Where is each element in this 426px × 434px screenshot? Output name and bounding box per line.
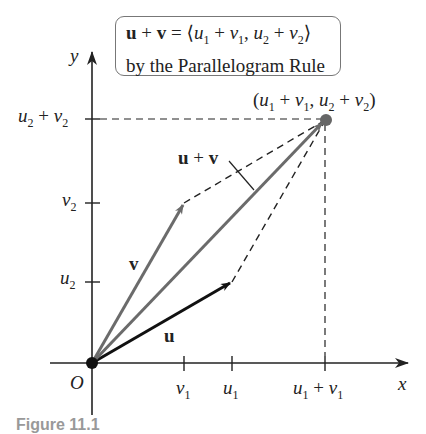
v: v — [329, 377, 337, 398]
plus: + — [34, 105, 54, 126]
paren: ) — [369, 89, 375, 110]
comma: , — [309, 89, 319, 110]
v: v — [355, 89, 363, 110]
x-tick-label-v1: v1 — [176, 378, 190, 405]
vector-u-label: u — [164, 326, 175, 346]
plus: + — [275, 89, 295, 110]
x-tick-label-u1: u1 — [223, 378, 239, 405]
bold-v: v — [157, 22, 167, 43]
close-bracket: ⟩ — [304, 22, 311, 43]
sub: 2 — [70, 278, 76, 292]
figure-caption: Figure 11.1 — [16, 416, 100, 434]
y-tick-label-u2v2: u2 + v2 — [18, 106, 68, 133]
u: u — [60, 267, 70, 288]
x-tick-label-u1v1: u1 + v1 — [293, 378, 343, 405]
comma: , — [244, 22, 254, 43]
plus: + — [209, 22, 229, 43]
y-tick-label-u2: u2 — [60, 268, 76, 295]
formula-caption: by the Parallelogram Rule — [126, 53, 340, 78]
vector-v-label: v — [129, 254, 139, 274]
plus: + — [309, 377, 329, 398]
v1: v — [230, 22, 238, 43]
sub: 2 — [62, 116, 68, 130]
origin-dot — [86, 357, 98, 369]
u1: u — [194, 22, 204, 43]
plus: + — [137, 22, 157, 43]
v: v — [54, 105, 62, 126]
plus: + — [269, 22, 289, 43]
u: u — [223, 377, 233, 398]
u2: u — [254, 22, 264, 43]
y-axis-label: y — [70, 46, 78, 66]
u: u — [259, 89, 269, 110]
formula-callout: u + v = ⟨u1 + v1, u2 + v2⟩ by the Parall… — [115, 16, 341, 76]
u: u — [293, 377, 303, 398]
sub: 1 — [184, 388, 190, 402]
sub: 1 — [337, 388, 343, 402]
bold-u: u — [126, 22, 137, 43]
sum-label-leader — [229, 161, 254, 190]
endpoint-label: (u1 + v1, u2 + v2) — [253, 90, 375, 117]
sub: 2 — [70, 200, 76, 214]
formula-line: u + v = ⟨u1 + v1, u2 + v2⟩ — [126, 20, 340, 53]
plus: + — [189, 147, 209, 168]
vector-sum-label: u + v — [178, 148, 218, 168]
equals-bracket: = ⟨ — [166, 22, 194, 43]
sub: 1 — [233, 388, 239, 402]
vector-u — [92, 283, 230, 363]
origin-label: O — [70, 373, 84, 393]
v2: v — [289, 22, 297, 43]
u: u — [18, 105, 28, 126]
bold-u: u — [178, 147, 189, 168]
bold-v: v — [209, 147, 219, 168]
plus: + — [334, 89, 354, 110]
x-axis-label: x — [398, 374, 406, 394]
y-tick-label-v2: v2 — [62, 190, 76, 217]
